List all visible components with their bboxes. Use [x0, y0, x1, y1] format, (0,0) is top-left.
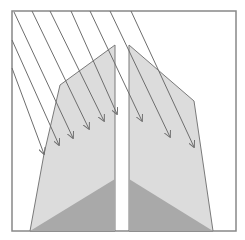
diagram-canvas [0, 0, 245, 240]
right-prism [129, 45, 213, 231]
arrow-1 [12, 68, 44, 154]
prism-light-diagram [0, 0, 245, 240]
arrow-3 [14, 12, 73, 138]
